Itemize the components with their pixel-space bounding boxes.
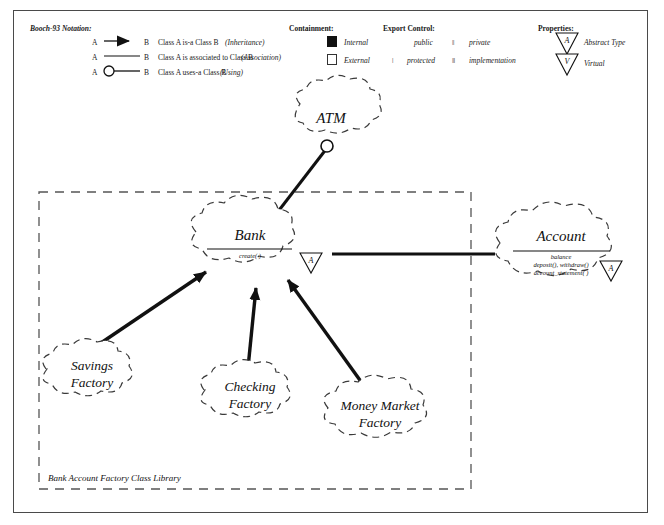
legend-export-1-label: private	[469, 38, 490, 47]
legend-export-0-label: public	[414, 38, 433, 47]
legend-relation-1-desc: Class A is associated to Class B	[158, 53, 253, 62]
diagram-page: Booch-93 Notation: A B Class A is-a Clas…	[0, 0, 664, 525]
legend-relation-2-from: A	[92, 68, 97, 77]
export-symbol-protected: |	[392, 56, 393, 64]
legend-relation-2-desc: Class A uses-a Class B	[158, 68, 226, 77]
legend-export-2-label: protected	[407, 56, 435, 65]
legend-properties-1-label: Virtual	[584, 59, 605, 68]
filled-square-icon	[327, 36, 337, 47]
export-symbol-private: ||	[452, 38, 454, 46]
library-boundary-label: Bank Account Factory Class Library	[48, 473, 181, 483]
legend-relation-0-kind: (Inheritance)	[225, 38, 265, 47]
legend-relation-0-to: B	[144, 38, 149, 47]
legend-export-title: Export Control:	[383, 24, 435, 33]
open-square-icon	[327, 54, 337, 65]
export-symbol-implementation: |||	[452, 56, 455, 64]
legend-relation-2-to: B	[144, 68, 149, 77]
legend-relation-1-kind: (Association)	[241, 53, 281, 62]
legend-relation-2-kind: (Using)	[220, 68, 243, 77]
legend-containment-title: Containment:	[289, 24, 334, 33]
legend-containment-1-label: External	[344, 56, 370, 65]
legend-relation-1-to: B	[144, 53, 149, 62]
legend-notation-title: Booch-93 Notation:	[30, 24, 91, 33]
outer-frame	[13, 10, 648, 513]
legend-relation-0-desc: Class A is-a Class B	[158, 38, 218, 47]
legend-export-3-label: implementation	[469, 56, 516, 65]
legend-relation-1-from: A	[92, 53, 97, 62]
legend-properties-title: Properties:	[538, 24, 574, 33]
legend-containment-0-label: Internal	[344, 38, 368, 47]
legend-properties-0-label: Abstract Type	[584, 38, 625, 47]
legend-relation-0-from: A	[92, 38, 97, 47]
